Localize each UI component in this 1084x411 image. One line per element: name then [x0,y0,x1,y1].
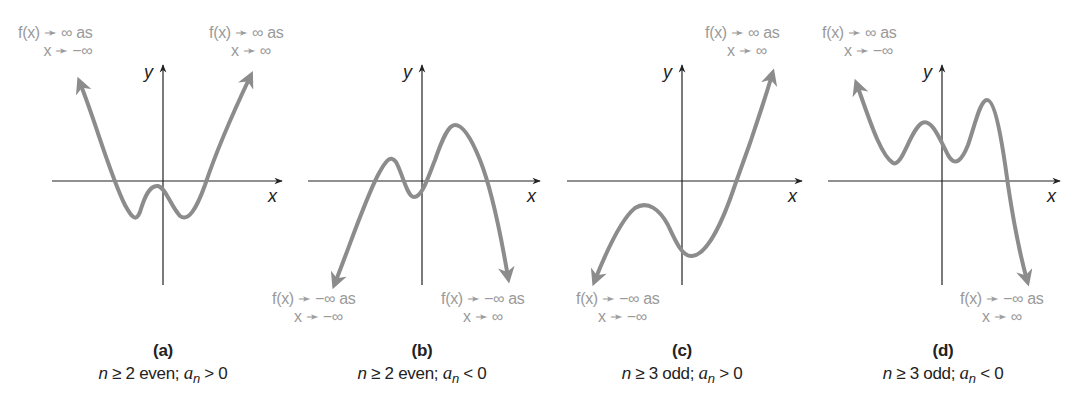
panel-b-left-end-label: f(x) ➛ −∞ as x ➛ −∞ [272,290,356,326]
panel-c-graph [567,65,802,285]
panel-c-caption: (c) n ≥ 3 odd; an > 0 [582,340,782,390]
panel-a-caption: (a) n ≥ 2 even; an > 0 [63,340,263,390]
panel-c-left-end-label: f(x) ➛ −∞ as x ➛ −∞ [576,290,660,326]
panel-d-graph [828,65,1060,285]
panel-d-right-end-label: f(x) ➛ −∞ as x ➛ ∞ [960,290,1044,326]
panel-condition: n ≥ 2 even; an < 0 [322,362,522,390]
curve [595,75,772,280]
panel-c-right-end-label: f(x) ➛ ∞ as x ➛ ∞ [705,24,779,60]
panel-d-y-label: y [923,62,932,83]
panel-a-graph [52,65,282,285]
panel-letter: (c) [582,340,782,362]
panel-d-x-label: x [1047,186,1056,207]
panel-condition: n ≥ 3 odd; an > 0 [582,362,782,390]
panel-a-x-label: x [268,186,277,207]
panel-d-left-end-label: f(x) ➛ ∞ as x ➛ −∞ [822,24,896,60]
panel-c-x-label: x [788,186,797,207]
panel-letter: (d) [843,340,1043,362]
curve [80,77,250,218]
panel-condition: n ≥ 3 odd; an < 0 [843,362,1043,390]
panel-letter: (a) [63,340,263,362]
panel-a-right-end-label: f(x) ➛ ∞ as x ➛ ∞ [209,24,283,60]
panel-a-left-end-label: f(x) ➛ ∞ as x ➛ −∞ [18,24,92,60]
panel-c-y-label: y [663,62,672,83]
panel-d-caption: (d) n ≥ 3 odd; an < 0 [843,340,1043,390]
panel-a-y-label: y [144,62,153,83]
panel-b-right-end-label: f(x) ➛ −∞ as x ➛ ∞ [441,290,525,326]
panel-b-y-label: y [403,62,412,83]
panel-b-caption: (b) n ≥ 2 even; an < 0 [322,340,522,390]
panel-condition: n ≥ 2 even; an > 0 [63,362,263,390]
panel-b-x-label: x [527,186,536,207]
panel-letter: (b) [322,340,522,362]
panel-b-graph [308,65,540,285]
